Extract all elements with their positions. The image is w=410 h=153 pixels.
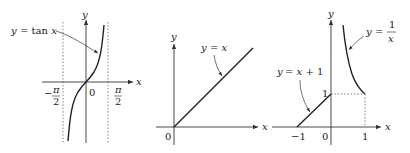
tick-neg-pi: π xyxy=(52,84,60,95)
y-axis-label: y xyxy=(81,9,88,20)
panel-tan: y x 0 − π 2 π 2 y = tan x xyxy=(10,9,142,143)
y-axis-label: y xyxy=(327,8,334,19)
x-axis-label: x xyxy=(385,121,391,132)
label-pointer xyxy=(56,31,98,53)
identity-line xyxy=(174,48,253,127)
label-linear-y: y xyxy=(276,66,283,77)
label-hyperbola-num: 1 xyxy=(389,19,395,30)
curve-label-rest: = tan x xyxy=(20,25,57,36)
origin-label: 0 xyxy=(165,131,171,142)
function-graphs-figure: y x 0 − π 2 π 2 y = tan x y x 0 y = x y xyxy=(0,0,410,153)
tick-pos-one: 1 xyxy=(362,131,368,142)
curve-label-rest: = x xyxy=(210,42,228,53)
label-pointer-linear xyxy=(300,80,310,112)
curve-label-y: y xyxy=(200,42,207,53)
label-pointer xyxy=(214,55,222,76)
label-hyperbola-eq: = xyxy=(375,26,383,37)
hyperbola-curve xyxy=(343,25,365,94)
panel-identity: y x 0 y = x xyxy=(156,31,268,145)
curve-label-y: y xyxy=(10,25,17,36)
origin-label: 0 xyxy=(322,131,328,142)
tick-minus-sign: − xyxy=(44,88,52,99)
tick-pos-pi: π xyxy=(114,84,122,95)
label-hyperbola-y: y xyxy=(365,26,372,37)
x-axis-label: x xyxy=(136,76,142,87)
label-linear-rest: = x + 1 xyxy=(285,66,323,77)
origin-label: 0 xyxy=(89,87,95,98)
tick-neg-two: 2 xyxy=(53,96,59,107)
label-pointer-hyperbola xyxy=(349,36,364,50)
tick-pos-two: 2 xyxy=(115,96,121,107)
label-hyperbola-den: x xyxy=(388,33,394,44)
y-axis-label: y xyxy=(170,31,177,42)
tick-y-one: 1 xyxy=(322,88,328,99)
x-axis-label: x xyxy=(262,121,268,132)
panel-piecewise: y x 0 −1 1 1 y = x + 1 y = 1 x xyxy=(272,8,396,145)
tick-neg-one: −1 xyxy=(291,131,306,142)
